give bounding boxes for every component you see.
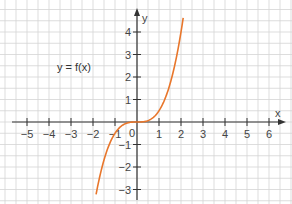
x-axis-arrow-icon <box>278 119 286 125</box>
x-tick-label: 2 <box>178 128 184 140</box>
y-tick-label: 3 <box>125 49 131 61</box>
x-tick-label: 1 <box>156 128 162 140</box>
axes <box>12 8 286 200</box>
y-tick-label: −2 <box>118 161 131 173</box>
x-tick-label: −2 <box>87 128 100 140</box>
y-tick-label: 2 <box>125 71 131 83</box>
y-tick-label: −1 <box>118 139 131 151</box>
x-tick-label: 3 <box>200 128 206 140</box>
grid <box>0 0 292 204</box>
y-tick-label: 4 <box>125 26 131 38</box>
x-tick-label: −4 <box>43 128 56 140</box>
function-graph: −5−4−3−2−1123456−3−2−11234 y = f(x) x y … <box>0 0 292 204</box>
y-axis-label: y <box>142 12 148 24</box>
x-tick-label: −3 <box>65 128 78 140</box>
origin-label: 0 <box>129 127 135 139</box>
y-tick-label: 1 <box>125 94 131 106</box>
x-tick-label: −5 <box>21 128 34 140</box>
y-tick-label: −3 <box>118 184 131 196</box>
x-tick-label: 6 <box>266 128 272 140</box>
x-tick-label: 5 <box>244 128 250 140</box>
function-label: y = f(x) <box>57 61 91 73</box>
x-tick-label: 4 <box>222 128 228 140</box>
x-axis-label: x <box>275 107 281 119</box>
